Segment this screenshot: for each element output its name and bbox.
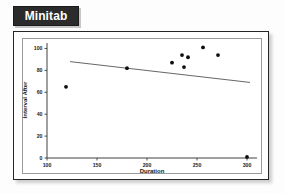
x-tick-label: 300 [243, 162, 252, 168]
fit-line-group [70, 62, 250, 83]
data-point [201, 45, 205, 49]
x-tick-label: 250 [193, 162, 202, 168]
y-tick-label: 40 [37, 111, 43, 117]
x-tick-group: 100150200250300 [43, 158, 252, 168]
regression-line [70, 62, 250, 83]
data-point [64, 85, 68, 89]
x-tick-label: 150 [93, 162, 102, 168]
data-point [180, 53, 184, 57]
data-point [186, 55, 190, 59]
x-tick-label: 200 [143, 162, 152, 168]
y-tick-label: 60 [37, 89, 43, 95]
y-tick-group: 020406080100 [34, 45, 47, 161]
data-point [245, 155, 249, 159]
data-point [182, 65, 186, 69]
minitab-title-text: Minitab [25, 10, 68, 22]
y-tick-label: 20 [37, 133, 43, 139]
x-axis-title: Duration [140, 168, 165, 174]
x-tick-label: 100 [43, 162, 52, 168]
data-point [125, 66, 129, 70]
y-tick-label: 80 [37, 67, 43, 73]
data-points-group [64, 45, 249, 158]
screenshot-root: Minitab 020406080100 100150200250300 Dur… [0, 0, 285, 194]
scatter-plot: 020406080100 100150200250300 Duration In… [14, 32, 270, 181]
data-point [170, 61, 174, 65]
y-tick-label: 100 [34, 45, 43, 51]
y-axis-title: Interval After [22, 81, 28, 118]
y-tick-label: 0 [40, 155, 43, 161]
minitab-title-badge: Minitab [13, 6, 79, 26]
chart-panel: 020406080100 100150200250300 Duration In… [13, 31, 269, 180]
data-point [216, 53, 220, 57]
